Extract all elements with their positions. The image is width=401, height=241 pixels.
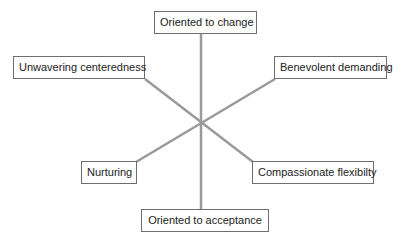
label-oriented-to-change: Oriented to change xyxy=(154,11,257,34)
label-nurturing: Nurturing xyxy=(81,161,137,184)
label-oriented-to-acceptance: Oriented to acceptance xyxy=(141,209,269,232)
spoke-ur-ll xyxy=(136,79,275,162)
dialectical-diagram: Oriented to change Unwavering centeredne… xyxy=(0,0,401,241)
label-unwavering-centeredness: Unwavering centeredness xyxy=(13,56,145,79)
spoke-lines xyxy=(0,0,401,241)
label-compassionate-flexibility: Compassionate flexibilty xyxy=(252,161,374,184)
spoke-ul-lr xyxy=(145,79,253,162)
label-benevolent-demanding: Benevolent demanding xyxy=(274,56,387,79)
